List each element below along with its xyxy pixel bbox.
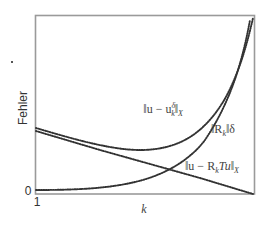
y-tick-zero: 0 [25, 184, 32, 198]
x-axis-label: k [141, 202, 147, 216]
x-tick-one: 1 [34, 195, 41, 209]
total-error-label: ‖u − uδk‖X [143, 101, 184, 118]
y-axis-label: Fehler [16, 91, 30, 125]
data-error-label: ‖Rk‖δ [211, 122, 235, 138]
approximation-error-label: ‖u − RkTu‖X [185, 159, 240, 175]
stray-mark [11, 61, 13, 63]
error-chart: Fehler 0 1 k ‖u − uδk‖X ‖Rk‖δ ‖u − RkTu‖… [0, 0, 270, 227]
